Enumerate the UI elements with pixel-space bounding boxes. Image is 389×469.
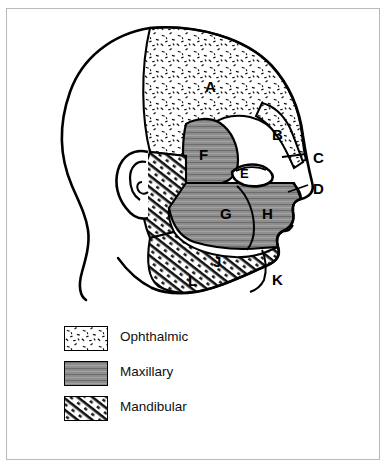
region-label-c: C xyxy=(313,150,324,165)
region-label-f: F xyxy=(199,147,208,162)
region-label-b: B xyxy=(272,127,283,142)
legend-label-mandibular: Mandibular xyxy=(120,399,187,414)
eye-glyph xyxy=(232,165,273,187)
ear-glyph xyxy=(116,151,148,219)
maxillary-upper-cheek-F xyxy=(183,119,238,183)
head-outline-group xyxy=(62,27,313,300)
region-label-g: G xyxy=(220,206,232,221)
legend-swatch-mandibular xyxy=(64,396,108,421)
region-label-a: A xyxy=(205,79,216,94)
region-label-j: J xyxy=(213,254,221,269)
head-dermatome-diagram xyxy=(0,0,389,469)
legend-label-ophthalmic: Ophthalmic xyxy=(120,329,188,344)
maxillary-cheek-GH xyxy=(169,183,301,249)
legend-swatch-ophthalmic xyxy=(64,326,108,351)
region-label-k: K xyxy=(272,272,283,287)
legend-swatch-maxillary xyxy=(64,361,108,386)
region-label-l: L xyxy=(188,273,197,288)
legend-label-maxillary: Maxillary xyxy=(120,364,173,379)
region-label-d: D xyxy=(313,181,324,196)
region-label-e: E xyxy=(240,167,249,180)
region-label-h: H xyxy=(262,206,273,221)
jawline-outline xyxy=(118,258,152,288)
